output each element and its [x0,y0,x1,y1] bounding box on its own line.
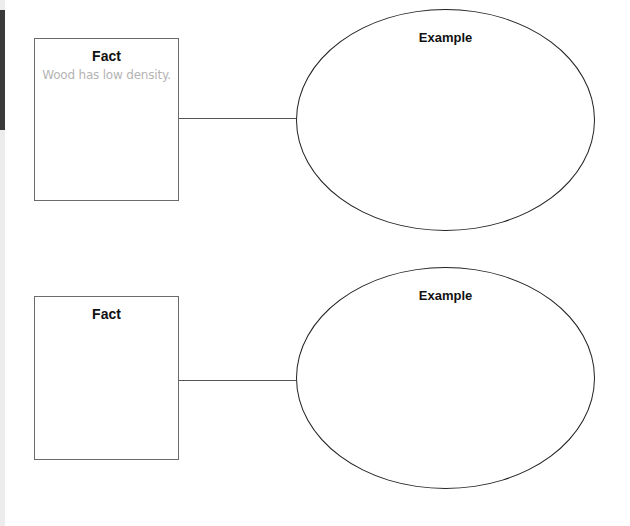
connector-line-1 [179,118,296,119]
fact-title-2: Fact [35,306,178,322]
example-ellipse-2[interactable]: Example [296,267,595,489]
fact-box-1[interactable]: Fact Wood has low density. [34,38,179,201]
fact-text-1: Wood has low density. [35,68,178,82]
example-ellipse-1[interactable]: Example [296,9,595,231]
fact-box-2[interactable]: Fact [34,296,179,460]
connector-line-2 [179,380,296,381]
page-edge-tab [0,10,5,130]
example-title-1: Example [297,30,594,45]
example-title-2: Example [297,288,594,303]
fact-title-1: Fact [35,48,178,64]
